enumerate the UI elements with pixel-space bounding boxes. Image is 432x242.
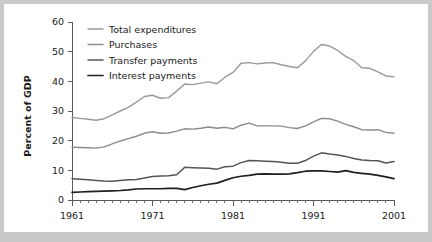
y-tick-label: 60	[52, 16, 64, 27]
figure-card: Percent of GDP 0102030405060 19611971198…	[4, 4, 428, 232]
legend-label-3: Interest payments	[109, 70, 196, 81]
y-tick-label: 20	[52, 135, 64, 146]
x-tick-label: 1991	[301, 210, 325, 221]
series-line-3	[72, 171, 394, 193]
x-tick-label: 1971	[140, 210, 164, 221]
legend-label-2: Transfer payments	[108, 55, 198, 66]
figure-root: Percent of GDP 0102030405060 19611971198…	[0, 0, 432, 242]
legend-label-0: Total expenditures	[108, 24, 196, 35]
y-tick-label: 40	[52, 76, 64, 87]
x-axis-tick-labels: 19611971198119912001	[60, 210, 406, 221]
chart-legend: Total expendituresPurchasesTransfer paym…	[88, 24, 198, 82]
y-axis-title-group: Percent of GDP	[22, 75, 33, 156]
y-tick-label: 30	[52, 105, 64, 116]
y-axis-title: Percent of GDP	[22, 75, 33, 156]
y-axis-tick-labels: 0102030405060	[52, 16, 64, 205]
y-tick-label: 10	[52, 165, 64, 176]
line-chart: Percent of GDP 0102030405060 19611971198…	[4, 4, 428, 232]
x-tick-label: 2001	[382, 210, 406, 221]
y-tick-label: 50	[52, 46, 64, 57]
x-tick-label: 1981	[221, 210, 245, 221]
x-tick-label: 1961	[60, 210, 84, 221]
y-tick-label: 0	[58, 194, 64, 205]
legend-label-1: Purchases	[109, 39, 157, 50]
series-line-1	[72, 118, 394, 148]
series-lines	[72, 45, 394, 193]
